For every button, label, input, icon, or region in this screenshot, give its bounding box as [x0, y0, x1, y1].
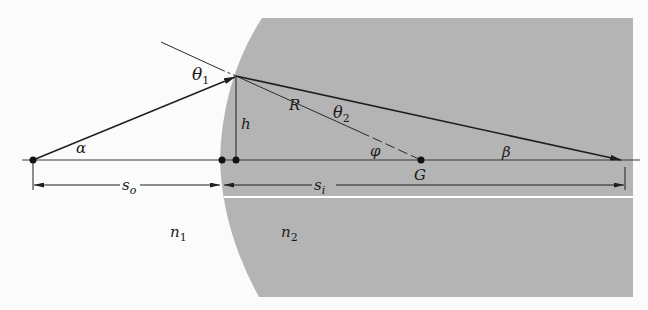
medium-n2-region [220, 18, 633, 297]
normal-line-dash [222, 70, 236, 76]
label-h: h [241, 115, 251, 133]
label-theta1: θ1 [192, 64, 209, 87]
incident-ray [33, 77, 235, 160]
center-point-G [418, 157, 425, 164]
height-foot-point [233, 157, 240, 164]
label-phi: φ [370, 142, 381, 160]
label-G: G [414, 166, 426, 184]
refraction-diagram: θ1 α h R θ2 φ β G so si n1 n2 [0, 0, 648, 310]
label-beta: β [501, 143, 511, 161]
label-alpha: α [76, 139, 86, 157]
label-so: so [122, 176, 137, 197]
vertex-point [219, 157, 226, 164]
label-R: R [288, 96, 300, 114]
label-n1: n1 [170, 223, 187, 244]
